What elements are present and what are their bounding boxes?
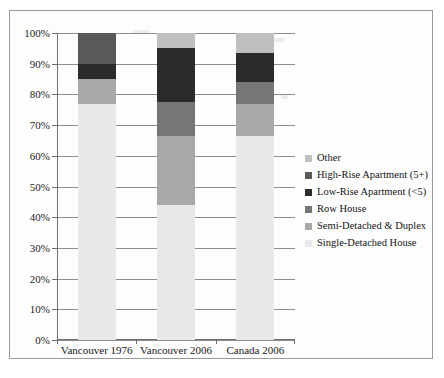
bar-segment[interactable] <box>78 64 116 79</box>
gridline <box>57 340 295 341</box>
bar-segment[interactable] <box>78 33 116 64</box>
stacked-bar[interactable] <box>157 33 195 340</box>
y-axis-tick-label: 70% <box>30 120 50 131</box>
bar-segment[interactable] <box>236 136 274 340</box>
legend-item[interactable]: High-Rise Apartment (5+) <box>305 168 444 183</box>
x-axis-label-2: Vancouver 2006 <box>140 344 212 357</box>
x-axis-label-3: Canada 2006 <box>226 344 284 357</box>
y-axis-tick-label: 90% <box>30 58 50 69</box>
y-axis-tick-label: 0% <box>35 335 50 346</box>
x-axis-labels: Vancouver 1976Vancouver 2006Canada 2006 <box>57 344 295 362</box>
legend-item-label: Low-Rise Apartment (<5) <box>317 187 426 198</box>
legend-item[interactable]: Semi-Detached & Duplex <box>305 219 444 234</box>
y-axis-line <box>57 33 58 340</box>
bar-segment[interactable] <box>236 53 274 82</box>
bar-segment[interactable] <box>78 79 116 104</box>
bar-segment[interactable] <box>157 102 195 136</box>
y-axis-tick-label: 50% <box>30 181 50 192</box>
legend-swatch-icon <box>305 240 312 247</box>
plot-area: 0%10%20%30%40%50%60%70%80%90%100% <box>57 33 295 340</box>
bar-group <box>157 33 195 340</box>
legend-item-label: Semi-Detached & Duplex <box>317 221 426 232</box>
bar-segment[interactable] <box>157 48 195 102</box>
legend-item-label: Other <box>317 153 341 164</box>
legend-item-label: High-Rise Apartment (5+) <box>317 170 428 181</box>
bar-segment[interactable] <box>157 136 195 205</box>
legend-item-label: Row House <box>317 204 366 215</box>
plot-inner: 0%10%20%30%40%50%60%70%80%90%100% <box>57 33 295 340</box>
y-axis-tick-label: 40% <box>30 212 50 223</box>
bar-segment[interactable] <box>78 104 116 340</box>
stacked-bar[interactable] <box>78 33 116 340</box>
y-axis-tick-label: 60% <box>30 150 50 161</box>
chart-frame: 0%10%20%30%40%50%60%70%80%90%100% Vancou… <box>9 10 433 359</box>
x-axis-label-1: Vancouver 1976 <box>61 344 133 357</box>
y-axis-tick-label: 100% <box>24 28 50 39</box>
y-axis-tick-label: 80% <box>30 89 50 100</box>
chart-legend: OtherHigh-Rise Apartment (5+)Low-Rise Ap… <box>305 151 444 253</box>
legend-swatch-icon <box>305 189 312 196</box>
bar-segment[interactable] <box>236 104 274 136</box>
legend-swatch-icon <box>305 223 312 230</box>
bar-segment[interactable] <box>157 33 195 48</box>
legend-swatch-icon <box>305 172 312 179</box>
y-axis-tick-label: 30% <box>30 242 50 253</box>
bar-group <box>236 33 274 340</box>
legend-swatch-icon <box>305 206 312 213</box>
legend-item[interactable]: Other <box>305 151 444 166</box>
y-axis-tick-label: 20% <box>30 273 50 284</box>
bar-group <box>78 33 116 340</box>
bar-segment[interactable] <box>236 33 274 53</box>
y-axis-tick-label: 10% <box>30 304 50 315</box>
legend-item[interactable]: Single-Detached House <box>305 236 444 251</box>
bar-segment[interactable] <box>157 205 195 340</box>
legend-item[interactable]: Low-Rise Apartment (<5) <box>305 185 444 200</box>
legend-swatch-icon <box>305 155 312 162</box>
stacked-bar[interactable] <box>236 33 274 340</box>
bar-segment[interactable] <box>236 82 274 103</box>
legend-item[interactable]: Row House <box>305 202 444 217</box>
legend-item-label: Single-Detached House <box>317 238 416 249</box>
